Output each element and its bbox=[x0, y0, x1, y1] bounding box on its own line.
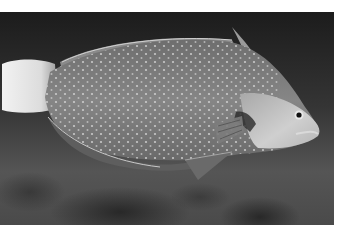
fish-illustration bbox=[0, 12, 334, 225]
fish-photo: Grayscale photo of a spotted wrasse fish… bbox=[0, 12, 334, 225]
